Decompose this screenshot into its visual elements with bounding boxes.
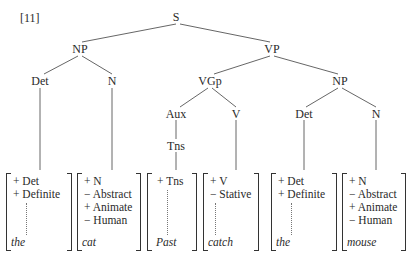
dotted-line [26, 203, 27, 235]
feature-matrix-v: + V − Stative catch [203, 173, 259, 251]
lexical-item: catch [208, 236, 233, 248]
node-n-subject: N [108, 75, 117, 87]
node-np-object: NP [332, 75, 347, 87]
feature-matrix-det-object: + Det + Definite the [271, 173, 337, 251]
feature: + N [84, 175, 132, 188]
node-v: V [232, 108, 241, 120]
lexical-item: cat [82, 236, 96, 248]
node-det-subject: Det [31, 75, 48, 87]
dotted-line [215, 203, 216, 235]
feature: + Definite [13, 188, 60, 201]
node-vp: VP [264, 43, 279, 55]
feature: + Det [278, 175, 325, 188]
feature: + Definite [278, 188, 325, 201]
dotted-line [291, 203, 292, 235]
feature: + Tns [157, 175, 183, 188]
feature: − Abstract [349, 188, 397, 201]
lexical-item: the [276, 236, 290, 248]
node-vgp: VGp [198, 75, 221, 87]
feature: + V [210, 175, 251, 188]
dotted-line [167, 190, 168, 235]
feature: − Stative [210, 188, 251, 201]
feature-matrix-n-object: + N − Abstract + Animate − Human mouse [342, 173, 406, 251]
lexical-item: Past [156, 236, 176, 248]
feature: + Animate [84, 201, 132, 214]
feature: + Det [13, 175, 60, 188]
feature: − Human [349, 214, 397, 227]
lexical-item: the [11, 236, 25, 248]
node-det-object: Det [295, 108, 312, 120]
lexical-item: mouse [347, 236, 376, 248]
feature: − Abstract [84, 188, 132, 201]
node-aux: Aux [166, 108, 187, 120]
feature-matrix-det-subject: + Det + Definite the [6, 173, 72, 251]
feature-matrix-tns: + Tns Past [147, 173, 197, 251]
node-s: S [173, 11, 180, 23]
feature: + Animate [349, 201, 397, 214]
feature: − Human [84, 214, 132, 227]
node-np-subject: NP [72, 43, 87, 55]
feature-matrix-n-subject: + N − Abstract + Animate − Human cat [77, 173, 141, 251]
node-tns: Tns [167, 140, 185, 152]
feature: + N [349, 175, 397, 188]
node-n-object: N [372, 108, 381, 120]
